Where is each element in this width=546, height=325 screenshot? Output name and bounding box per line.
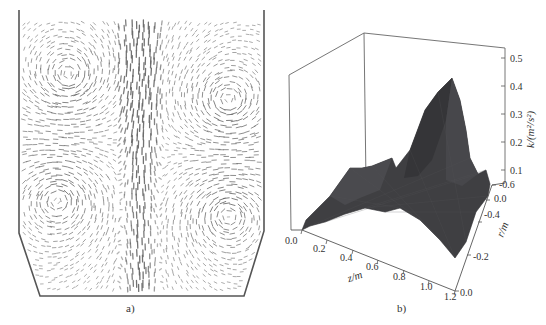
k-axis-label: k/(m²/s²) [524,111,537,148]
panel-b-caption: b) [397,302,406,314]
z-tick-0.0: 0.0 [285,235,298,246]
z-tick-0.6: 0.6 [366,261,379,272]
r-tick-0.0: 0.0 [460,287,473,298]
z-tick-1.0: 1.0 [420,281,433,292]
r-axis-label: r/m [494,220,511,239]
z-tick-0.2: 0.2 [313,243,326,254]
r-tick-neg0.4: -0.4 [484,209,500,220]
r-tick-neg0.2: -0.2 [473,251,489,262]
k-axis-ticks [501,58,505,170]
z-tick-0.4: 0.4 [340,252,353,263]
panel-a-vector-field: a) [0,0,273,325]
surface-mesh [302,78,490,258]
z-tick-0.8: 0.8 [393,271,406,282]
k-tick-0.1: 0.1 [510,165,523,176]
k-tick-0.5: 0.5 [510,53,523,64]
k-tick-0.2: 0.2 [510,137,523,148]
vector-field-plot [0,0,273,325]
r-tick-neg0.6: -0.6 [499,179,515,190]
panel-a-caption: a) [126,302,135,314]
z-axis-label: z/m [345,268,364,284]
panel-b-surface-plot: 0.1 0.2 0.3 0.4 0.5 k/(m²/s²) 0.0 0.2 0.… [273,0,546,325]
z-tick-1.2: 1.2 [444,291,457,302]
k-tick-0.3: 0.3 [510,109,523,120]
k-tick-0.4: 0.4 [510,81,523,92]
velocity-vectors [22,20,262,292]
r-tick-0.0-upper: 0.0 [494,193,507,204]
surface-3d-plot: 0.1 0.2 0.3 0.4 0.5 k/(m²/s²) 0.0 0.2 0.… [273,0,546,325]
